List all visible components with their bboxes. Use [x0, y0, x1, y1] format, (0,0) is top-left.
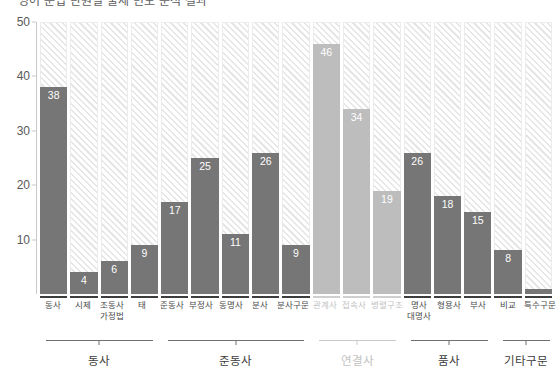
bar[interactable]: 34	[343, 109, 370, 294]
category-label: 비교	[495, 300, 522, 326]
bar-track	[101, 22, 128, 294]
bar[interactable]: 9	[282, 245, 309, 294]
bar-value-label: 4	[70, 275, 97, 286]
plot-area: 1020304050 3846917251126946341926181581	[36, 22, 552, 294]
bar-baseline	[343, 296, 370, 298]
group-bracket: 기타구문	[497, 340, 556, 368]
bar-column[interactable]: 18	[434, 22, 461, 294]
bar-column[interactable]: 19	[373, 22, 400, 294]
group-bracket: 품사	[405, 340, 494, 368]
category-label-line1: 접속사	[342, 300, 366, 310]
group-label: 기타구문	[497, 352, 556, 368]
bar[interactable]: 15	[464, 212, 491, 294]
category-labels: 동사시제조동사가정법태준동사부정사동명사분사분사구문관계사접속사병렬구조명사대명…	[40, 300, 556, 326]
group-label: 동사	[40, 352, 159, 368]
y-tick-mark	[32, 130, 36, 131]
y-tick-label: 20	[17, 178, 30, 192]
bar[interactable]: 46	[313, 44, 340, 294]
bar[interactable]: 25	[191, 158, 218, 294]
bar-column[interactable]: 11	[222, 22, 249, 294]
category-label: 병렬구조	[371, 300, 403, 326]
bar-value-label: 26	[252, 156, 279, 167]
bar-baseline	[525, 296, 552, 298]
bar[interactable]: 9	[131, 245, 158, 294]
bar-column[interactable]: 9	[131, 22, 158, 294]
y-tick-label: 50	[17, 15, 30, 29]
bar-baseline	[373, 296, 400, 298]
bar[interactable]: 26	[404, 153, 431, 294]
y-tick-mark	[32, 185, 36, 186]
bar[interactable]: 4	[70, 272, 97, 294]
bar-value-label: 9	[282, 248, 309, 259]
category-label-line1: 동사	[45, 300, 61, 310]
bar-baseline	[313, 296, 340, 298]
bar-value-label: 38	[40, 90, 67, 101]
bar-column[interactable]: 26	[252, 22, 279, 294]
category-label: 접속사	[341, 300, 368, 326]
category-label: 특수구문	[524, 300, 556, 326]
bar-baseline	[222, 296, 249, 298]
bracket-tick	[99, 340, 100, 345]
category-label-line1: 시제	[75, 300, 91, 310]
bar-baseline	[70, 296, 97, 298]
category-label-line2: 대명사	[406, 311, 433, 322]
bar-baseline	[464, 296, 491, 298]
bracket-line	[411, 340, 488, 348]
bracket-line	[46, 340, 153, 348]
bar[interactable]: 26	[252, 153, 279, 294]
bar-column[interactable]: 38	[40, 22, 67, 294]
bar-column[interactable]: 46	[313, 22, 340, 294]
bar[interactable]: 6	[101, 261, 128, 294]
category-label: 조동사가정법	[99, 300, 126, 326]
category-label-line1: 형용사	[437, 300, 461, 310]
bracket-tick	[357, 340, 358, 345]
page-title: 영어 문법 단원별 출제 빈도 분석 결과	[18, 0, 207, 8]
category-label-line1: 명사	[411, 300, 427, 310]
chart-title-clipped: 영어 문법 단원별 출제 빈도 분석 결과	[0, 0, 560, 9]
group-label: 품사	[405, 352, 494, 368]
category-label-line1: 분사	[252, 300, 268, 310]
category-label: 동사	[40, 300, 67, 326]
bar-value-label: 6	[101, 264, 128, 275]
bar-column[interactable]: 34	[343, 22, 370, 294]
category-label-line1: 비교	[500, 300, 516, 310]
bar[interactable]: 17	[161, 202, 188, 294]
category-label: 준동사	[158, 300, 185, 326]
bar-column[interactable]: 15	[464, 22, 491, 294]
bar-value-label: 11	[222, 237, 249, 248]
bar-track	[525, 22, 552, 294]
bar-value-label: 15	[464, 215, 491, 226]
bar[interactable]: 18	[434, 196, 461, 294]
y-tick-label: 40	[17, 69, 30, 83]
bar-column[interactable]: 17	[161, 22, 188, 294]
bar-baseline	[161, 296, 188, 298]
bar-value-label: 26	[404, 156, 431, 167]
bar-value-label: 8	[494, 253, 521, 264]
bar[interactable]: 38	[40, 87, 67, 294]
chart-page: 영어 문법 단원별 출제 빈도 분석 결과 1020304050 3846917…	[0, 0, 560, 371]
bar[interactable]: 11	[222, 234, 249, 294]
bar[interactable]: 19	[373, 191, 400, 294]
bracket-line	[319, 340, 396, 348]
bar-value-label: 25	[191, 161, 218, 172]
bar-column[interactable]: 6	[101, 22, 128, 294]
category-label-line1: 준동사	[160, 300, 184, 310]
category-label-line1: 분사구문	[277, 300, 309, 310]
bar-column[interactable]: 4	[70, 22, 97, 294]
y-axis-line	[36, 22, 37, 294]
bar[interactable]: 1	[525, 289, 552, 294]
bar-column[interactable]: 8	[494, 22, 521, 294]
bar[interactable]: 8	[494, 250, 521, 294]
bar-column[interactable]: 9	[282, 22, 309, 294]
bar-column[interactable]: 25	[191, 22, 218, 294]
category-label-line1: 부정사	[189, 300, 213, 310]
category-label: 시제	[70, 300, 97, 326]
category-label-line1: 동명사	[219, 300, 243, 310]
y-tick-label: 30	[17, 124, 30, 138]
bracket-line	[503, 340, 550, 348]
group-label: 연결사	[313, 352, 402, 368]
bar-column[interactable]: 26	[404, 22, 431, 294]
y-tick-mark	[32, 76, 36, 77]
bar-column[interactable]: 1	[525, 22, 552, 294]
category-label-line1: 부사	[470, 300, 486, 310]
